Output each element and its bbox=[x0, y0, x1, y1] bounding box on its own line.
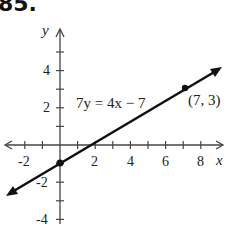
y-tick-label: 2 bbox=[43, 100, 50, 115]
graph: -2 2 4 6 8 4 2 -2 -4 x y 7y = 4x − 7 (7,… bbox=[0, 0, 229, 226]
x-tick-label: 6 bbox=[162, 154, 169, 169]
point-y-intercept bbox=[56, 159, 63, 166]
point-label: (7, 3) bbox=[188, 92, 221, 109]
x-tick-label: 4 bbox=[127, 154, 134, 169]
point-7-3 bbox=[182, 85, 188, 91]
x-tick-label: 8 bbox=[197, 154, 204, 169]
x-tick-label: -2 bbox=[18, 154, 30, 169]
y-tick-label: 4 bbox=[43, 63, 50, 78]
line-series bbox=[6, 67, 222, 196]
y-axis-label: y bbox=[40, 22, 49, 38]
x-axis bbox=[5, 141, 223, 149]
x-tick-label: 2 bbox=[91, 154, 98, 169]
y-tick-label: -4 bbox=[36, 212, 48, 226]
equation-label: 7y = 4x − 7 bbox=[76, 95, 146, 111]
x-axis-label: x bbox=[215, 152, 223, 168]
